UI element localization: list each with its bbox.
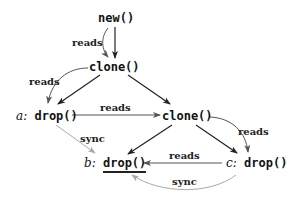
node-a-sep: :: [23, 109, 27, 123]
edge-reads-new: [103, 28, 108, 57]
node-c-var: c: [226, 156, 233, 170]
node-c-sep: :: [233, 156, 237, 170]
label-reads-c-b: reads: [169, 150, 200, 162]
label-reads-clone-a: reads: [29, 76, 60, 88]
label-sync-c-b: sync: [172, 176, 197, 188]
edge-clone-c: [196, 125, 237, 153]
node-b-drop: b: drop(): [84, 156, 146, 170]
node-clone-top: clone(): [89, 60, 140, 74]
node-clone-top-label: clone(): [89, 60, 140, 74]
node-c-label: drop(): [244, 156, 287, 170]
node-b-sep: :: [92, 156, 96, 170]
node-clone-right: clone(): [162, 109, 213, 123]
label-reads-clone-c: reads: [238, 126, 269, 138]
node-new-label: new(): [98, 11, 134, 25]
node-c-drop: c: drop(): [226, 156, 287, 170]
edge-clone-a: [58, 75, 100, 104]
label-reads-a-clone: reads: [100, 102, 131, 114]
node-a-drop: a: drop(): [16, 109, 78, 123]
label-reads-new: reads: [72, 37, 103, 49]
node-new: new(): [98, 11, 134, 25]
edge-clone-clone: [128, 75, 170, 104]
node-a-label: drop(): [34, 109, 77, 123]
label-sync-a-b: sync: [80, 133, 105, 145]
node-b-label: drop(): [103, 156, 146, 173]
node-b-var: b: [84, 156, 92, 170]
node-clone-right-label: clone(): [162, 109, 213, 123]
edge-clone-b: [128, 125, 172, 154]
